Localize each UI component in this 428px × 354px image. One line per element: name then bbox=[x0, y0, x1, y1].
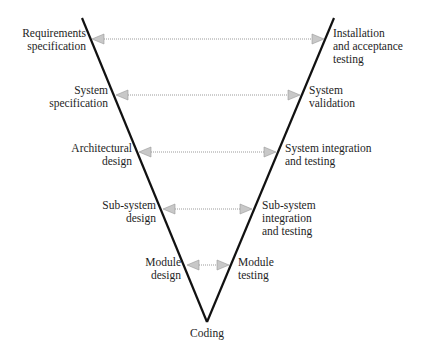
label-line: design bbox=[71, 155, 132, 168]
connection-arrow-3 bbox=[139, 147, 276, 157]
label-module-design: Module design bbox=[145, 256, 181, 282]
label-installation-acceptance-testing: Installation and acceptance testing bbox=[333, 27, 403, 66]
label-line: Sub-system bbox=[102, 199, 156, 212]
label-line: System bbox=[309, 84, 355, 97]
label-line: Installation bbox=[333, 27, 403, 40]
label-system-specification: System specification bbox=[49, 84, 108, 110]
label-line: and testing bbox=[285, 155, 372, 168]
connection-arrow-2 bbox=[116, 90, 300, 100]
label-line: Requirements bbox=[22, 27, 86, 40]
label-line: Sub-system bbox=[262, 199, 316, 212]
label-sub-system-integration-testing: Sub-system integration and testing bbox=[262, 199, 316, 238]
label-sub-system-design: Sub-system design bbox=[102, 199, 156, 225]
connection-arrow-4 bbox=[163, 204, 252, 214]
connection-arrow-1 bbox=[92, 34, 324, 44]
label-line: specification bbox=[22, 40, 86, 53]
label-line: and acceptance bbox=[333, 40, 403, 53]
label-line: System integration bbox=[285, 142, 372, 155]
label-line: System bbox=[49, 84, 108, 97]
label-line: Module bbox=[238, 256, 274, 269]
label-module-testing: Module testing bbox=[238, 256, 274, 282]
label-line: design bbox=[102, 212, 156, 225]
label-line: testing bbox=[333, 53, 403, 66]
label-requirements-specification: Requirements specification bbox=[22, 27, 86, 53]
label-system-validation: System validation bbox=[309, 84, 355, 110]
label-line: Coding bbox=[187, 327, 227, 340]
label-line: specification bbox=[49, 97, 108, 110]
label-line: integration bbox=[262, 212, 316, 225]
label-architectural-design: Architectural design bbox=[71, 142, 132, 168]
label-line: validation bbox=[309, 97, 355, 110]
label-line: Module bbox=[145, 256, 181, 269]
label-line: design bbox=[145, 269, 181, 282]
connection-arrow-5 bbox=[187, 260, 229, 270]
label-coding: Coding bbox=[187, 327, 227, 340]
label-line: and testing bbox=[262, 225, 316, 238]
label-system-integration-testing: System integration and testing bbox=[285, 142, 372, 168]
label-line: testing bbox=[238, 269, 274, 282]
label-line: Architectural bbox=[71, 142, 132, 155]
